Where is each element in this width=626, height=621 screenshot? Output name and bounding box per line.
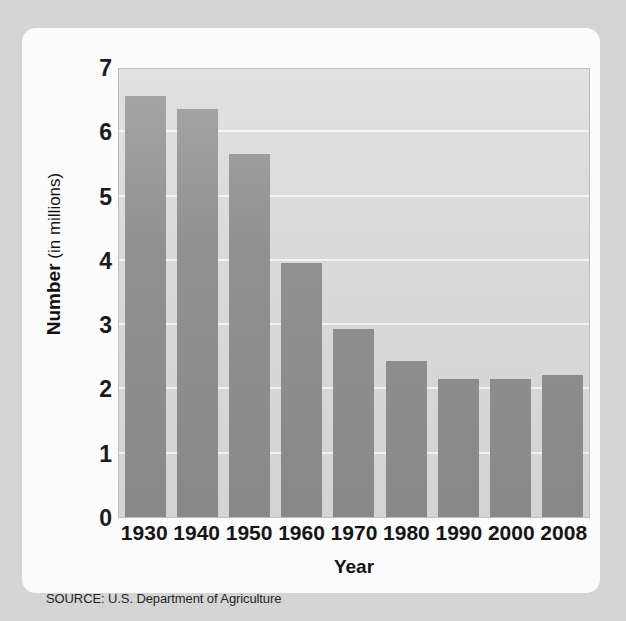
plot-area: [118, 68, 590, 518]
bar-1990: [438, 379, 479, 517]
bar-2008: [542, 375, 583, 517]
x-tick-label-1960: 1960: [276, 522, 328, 552]
bar-1970: [333, 329, 374, 517]
chart-page: 76543210 Number (in millions) 1930194019…: [0, 0, 626, 621]
x-tick-label-1950: 1950: [223, 522, 275, 552]
bar-series: [119, 69, 589, 517]
y-tick-label: 2: [99, 378, 112, 401]
x-tick-label-2008: 2008: [538, 522, 590, 552]
bar-chart: 76543210 Number (in millions) 1930194019…: [22, 28, 600, 593]
y-axis-ticks: 76543210: [82, 68, 112, 518]
x-axis-ticks: 193019401950196019701980199020002008: [118, 522, 590, 552]
y-axis-title: Number (in millions): [43, 104, 65, 404]
bar-1930: [125, 96, 166, 517]
x-tick-label-2000: 2000: [485, 522, 537, 552]
x-tick-label-1940: 1940: [171, 522, 223, 552]
x-tick-label-1990: 1990: [433, 522, 485, 552]
y-tick-label: 6: [99, 121, 112, 144]
y-tick-label: 0: [99, 507, 112, 530]
y-axis-title-strong: Number: [43, 263, 64, 335]
x-tick-label-1980: 1980: [380, 522, 432, 552]
x-tick-label-1930: 1930: [118, 522, 170, 552]
y-tick-label: 1: [99, 442, 112, 465]
bar-1950: [229, 154, 270, 517]
y-tick-label: 3: [99, 314, 112, 337]
y-tick-label: 4: [99, 249, 112, 272]
y-tick-label: 5: [99, 185, 112, 208]
x-tick-label-1970: 1970: [328, 522, 380, 552]
bar-1940: [177, 109, 218, 517]
source-note: SOURCE: U.S. Department of Agriculture: [46, 591, 281, 606]
y-tick-label: 7: [99, 57, 112, 80]
y-axis-title-light: (in millions): [45, 173, 64, 264]
bar-2000: [490, 379, 531, 517]
bar-1960: [281, 263, 322, 517]
bar-1980: [386, 361, 427, 517]
chart-card: 76543210 Number (in millions) 1930194019…: [22, 28, 600, 593]
x-axis-title: Year: [118, 556, 590, 578]
